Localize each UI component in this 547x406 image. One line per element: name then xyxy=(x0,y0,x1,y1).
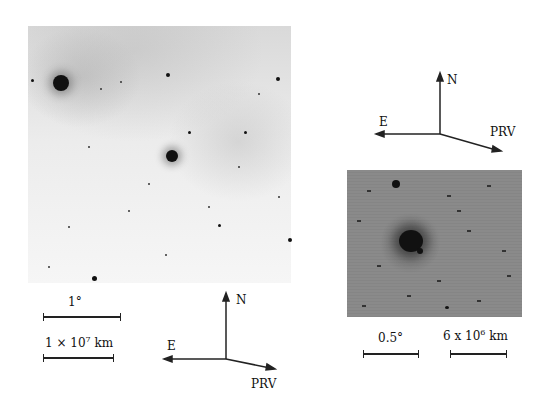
comet-wide-field-image xyxy=(28,26,291,283)
comet-nucleus xyxy=(166,150,178,162)
bright-star xyxy=(53,75,69,91)
compass-north-label: N xyxy=(447,73,458,87)
star xyxy=(276,77,280,81)
star xyxy=(417,248,423,254)
star xyxy=(244,131,247,134)
scale-bar-distance xyxy=(450,350,507,358)
scale-bar-angle xyxy=(43,313,121,321)
scale-label-distance: 1 × 107 km xyxy=(45,335,113,350)
star xyxy=(218,224,221,227)
compass-right xyxy=(370,70,510,160)
star xyxy=(92,276,97,281)
star xyxy=(288,238,292,242)
compass-left xyxy=(160,290,280,370)
compass-east-label: E xyxy=(167,339,176,353)
compass-prv-label: PRV xyxy=(490,125,515,139)
star xyxy=(31,79,34,82)
scale-label-angle: 1° xyxy=(68,295,82,309)
compass-north-label: N xyxy=(236,293,247,307)
comet-closeup-image xyxy=(347,170,522,317)
star xyxy=(166,73,170,77)
scale-label-angle: 0.5° xyxy=(378,331,403,345)
compass-prv-label: PRV xyxy=(251,377,276,391)
star xyxy=(188,131,191,134)
scale-label-distance: 6 x 106 km xyxy=(443,328,508,343)
star xyxy=(392,180,400,188)
compass-east-label: E xyxy=(379,115,388,129)
scale-bar-distance xyxy=(43,354,114,362)
scale-bar-angle xyxy=(363,350,419,358)
